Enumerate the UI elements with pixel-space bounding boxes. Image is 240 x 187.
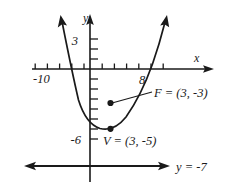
x-tick-label-neg10: -10 <box>33 72 50 86</box>
focus-leader-line <box>112 92 152 103</box>
focus-point <box>107 100 113 106</box>
x-axis-ticks <box>35 64 163 70</box>
x-axis <box>32 64 214 73</box>
x-tick-label-8: 8 <box>139 73 146 87</box>
parabola-curve <box>58 15 169 129</box>
y-tick-label-neg6: -6 <box>71 133 82 147</box>
y-axis-label: y <box>82 11 89 25</box>
x-axis-label: x <box>193 51 200 65</box>
directrix-label: y = -7 <box>174 160 207 174</box>
parabola-figure: -10 8 3 -6 y x F = (3, -3) V = (3, -5) y… <box>0 0 240 187</box>
vertex-label: V = (3, -5) <box>103 134 156 148</box>
vertex-point <box>107 126 113 132</box>
y-tick-label-3: 3 <box>71 34 78 48</box>
y-axis <box>86 14 98 182</box>
focus-label: F = (3, -3) <box>153 86 208 100</box>
directrix-line <box>24 162 170 170</box>
